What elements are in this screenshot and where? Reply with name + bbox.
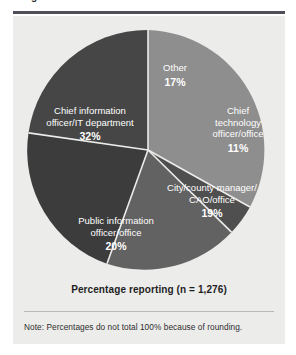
pie-chart-figure: Figure 1. Who leads social media efforts… xyxy=(0,0,296,355)
pie-label-chief-technology-officer: Chief technology officer/office 11% xyxy=(196,105,280,154)
pie-label-ccm-line1: City/county manager/ xyxy=(167,182,257,193)
pie-label-other-value: 17% xyxy=(140,77,210,89)
pie-label-pio-value: 20% xyxy=(56,241,176,253)
pie-label-cto-line1: Chief xyxy=(227,105,249,116)
figure-title: Figure 1. Who leads social media efforts xyxy=(22,0,272,5)
pie-label-ccm-line2: CAO/office xyxy=(189,194,235,205)
pie-label-cio-line1: Chief information xyxy=(54,105,126,116)
pie-label-public-information-officer: Public information officer/office 20% xyxy=(56,215,176,253)
note-divider xyxy=(24,311,274,312)
pie-label-cto-line2: technology xyxy=(215,117,261,128)
top-divider xyxy=(13,11,285,14)
pie-label-other-text: Other xyxy=(163,62,187,73)
pie-label-pio-line2: officer/office xyxy=(91,227,142,238)
chart-note: Note: Percentages do not total 100% beca… xyxy=(24,322,280,332)
pie-label-cto-value: 11% xyxy=(196,143,280,155)
pie-label-cio-line2: officer/IT department xyxy=(46,117,133,128)
pie-label-pio-line1: Public information xyxy=(78,215,154,226)
chart-caption: Percentage reporting (n = 1,276) xyxy=(13,284,285,295)
pie-label-chief-information-officer: Chief information officer/IT department … xyxy=(20,105,160,143)
pie-label-cto-line3: officer/office xyxy=(213,128,264,139)
pie-label-city-county-manager: City/county manager/ CAO/office 19% xyxy=(150,182,274,220)
pie-label-cio-value: 32% xyxy=(20,131,160,143)
pie-label-other: Other 17% xyxy=(140,62,210,88)
